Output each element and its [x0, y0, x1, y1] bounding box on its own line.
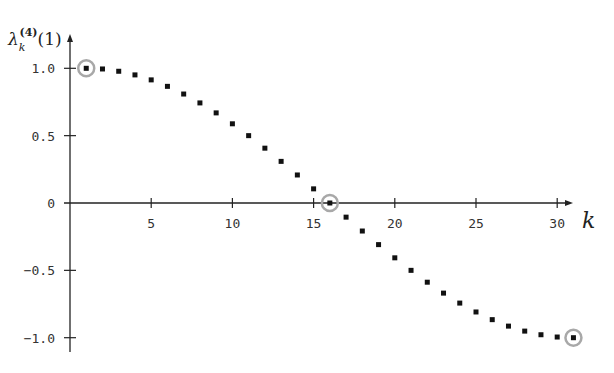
data-point [230, 121, 235, 126]
data-point [506, 324, 511, 329]
data-point [360, 229, 365, 234]
data-point [197, 100, 202, 105]
data-point [555, 335, 560, 340]
data-point [165, 84, 170, 89]
x-tick-label: 20 [387, 216, 403, 231]
x-tick-label: 15 [306, 216, 322, 231]
data-point [457, 301, 462, 306]
y-tick-label: −0.5 [24, 263, 55, 278]
data-point [441, 291, 446, 296]
data-point [538, 332, 543, 337]
data-point [132, 72, 137, 77]
data-point [116, 69, 121, 74]
data-point [409, 268, 414, 273]
data-point [262, 146, 267, 151]
data-point [311, 186, 316, 191]
y-axis-label: λk(4)(1) [7, 26, 62, 54]
x-tick-label: 30 [549, 216, 565, 231]
axes [64, 34, 573, 352]
axis-labels: λk(4)(1) k [7, 26, 595, 233]
data-point [392, 255, 397, 260]
y-tick-label: 0.5 [32, 129, 55, 144]
data-point [84, 66, 89, 71]
data-point [490, 317, 495, 322]
data-point [100, 66, 105, 71]
y-axis-arrow-icon [67, 34, 73, 42]
eigenvalue-chart: 510152025301.00.50−0.5−1.0 λk(4)(1) k [0, 0, 614, 373]
data-point [214, 110, 219, 115]
x-axis-arrow-icon [565, 200, 573, 206]
data-point [376, 242, 381, 247]
data-point [279, 159, 284, 164]
data-point [344, 215, 349, 220]
y-tick-label: 1.0 [32, 61, 55, 76]
x-tick-label: 10 [225, 216, 241, 231]
data-point [181, 92, 186, 97]
y-tick-label: −1.0 [24, 331, 55, 346]
data-point [327, 201, 332, 206]
y-tick-label: 0 [47, 196, 55, 211]
data-point [571, 335, 576, 340]
data-point [295, 172, 300, 177]
x-tick-label: 25 [468, 216, 484, 231]
x-tick-label: 5 [147, 216, 155, 231]
data-point [425, 280, 430, 285]
data-point [149, 77, 154, 82]
data-point [246, 133, 251, 138]
data-point [522, 329, 527, 334]
x-axis-label: k [582, 208, 595, 233]
data-point [474, 309, 479, 314]
